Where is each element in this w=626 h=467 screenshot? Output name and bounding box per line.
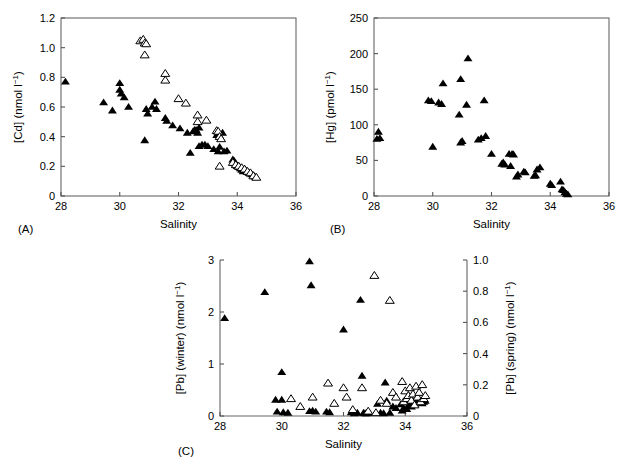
svg-text:0.2: 0.2: [473, 379, 488, 391]
svg-text:2: 2: [208, 306, 214, 318]
svg-text:0.4: 0.4: [473, 348, 488, 360]
svg-text:32: 32: [337, 420, 349, 432]
svg-text:0: 0: [362, 190, 368, 202]
svg-text:250: 250: [350, 12, 368, 24]
svg-text:30: 30: [114, 200, 126, 212]
svg-text:32: 32: [172, 200, 184, 212]
svg-text:34: 34: [399, 420, 411, 432]
svg-text:[Pb] (winter) (nmol l−1): [Pb] (winter) (nmol l−1): [173, 282, 187, 395]
svg-text:0.6: 0.6: [473, 316, 488, 328]
panel-b-mercury-scatter: 2830323436050100150200250Salinity[Hg] (p…: [312, 0, 626, 240]
svg-text:[Pb] (spring) (nmol l−1): [Pb] (spring) (nmol l−1): [503, 281, 517, 394]
panel-a-cadmium-scatter: 283032343600.20.40.60.81.01.2Salinity[Cd…: [0, 0, 312, 240]
svg-text:[Cd] (nmol l−1): [Cd] (nmol l−1): [11, 71, 25, 143]
panel-c-lead-scatter: 2830323436012300.20.40.60.81.0Salinity[P…: [170, 238, 626, 467]
svg-text:1.0: 1.0: [40, 42, 55, 54]
svg-text:0: 0: [208, 410, 214, 422]
svg-text:34: 34: [231, 200, 243, 212]
panel-a-svg: 283032343600.20.40.60.81.01.2Salinity[Cd…: [0, 0, 312, 240]
scientific-figure: 283032343600.20.40.60.81.01.2Salinity[Cd…: [0, 0, 626, 467]
svg-text:30: 30: [276, 420, 288, 432]
svg-text:0.2: 0.2: [40, 160, 55, 172]
svg-text:0: 0: [49, 190, 55, 202]
svg-text:(A): (A): [18, 223, 34, 235]
svg-text:1.0: 1.0: [473, 254, 488, 266]
svg-text:36: 36: [603, 200, 615, 212]
svg-text:[Hg] (pmol l−1): [Hg] (pmol l−1): [323, 71, 337, 143]
svg-text:Salinity: Salinity: [473, 218, 510, 230]
svg-text:34: 34: [544, 200, 556, 212]
svg-text:32: 32: [485, 200, 497, 212]
svg-text:0.6: 0.6: [40, 101, 55, 113]
svg-text:1: 1: [208, 358, 214, 370]
svg-text:Salinity: Salinity: [160, 218, 197, 230]
svg-text:(B): (B): [330, 223, 346, 235]
svg-text:200: 200: [350, 48, 368, 60]
svg-text:36: 36: [290, 200, 302, 212]
svg-text:0.8: 0.8: [40, 71, 55, 83]
series-spring: [287, 271, 430, 415]
svg-text:28: 28: [214, 420, 226, 432]
svg-text:28: 28: [55, 200, 67, 212]
svg-text:30: 30: [427, 200, 439, 212]
svg-text:150: 150: [350, 83, 368, 95]
svg-text:100: 100: [350, 119, 368, 131]
svg-text:0.4: 0.4: [40, 131, 55, 143]
svg-text:(C): (C): [178, 445, 194, 457]
svg-text:36: 36: [461, 420, 473, 432]
series-winter: [220, 257, 430, 416]
series-winter: [372, 54, 572, 197]
panel-b-svg: 2830323436050100150200250Salinity[Hg] (p…: [312, 0, 626, 240]
svg-text:0: 0: [473, 410, 479, 422]
svg-text:3: 3: [208, 254, 214, 266]
svg-text:0.8: 0.8: [473, 285, 488, 297]
svg-text:Salinity: Salinity: [325, 438, 362, 450]
svg-text:28: 28: [368, 200, 380, 212]
svg-text:50: 50: [356, 154, 368, 166]
svg-text:1.2: 1.2: [40, 12, 55, 24]
panel-c-svg: 2830323436012300.20.40.60.81.0Salinity[P…: [170, 238, 626, 467]
